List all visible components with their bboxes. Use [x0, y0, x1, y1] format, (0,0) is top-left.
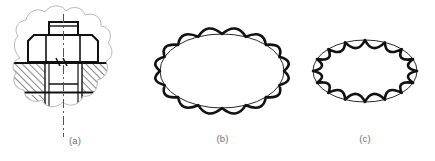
panel-b-caption: (b) [150, 133, 295, 145]
lower-plate-left-hatch [8, 95, 45, 123]
panel-b: (b) [150, 0, 295, 161]
panel-c-caption: (c) [295, 133, 435, 145]
lower-plate-right-hatch [82, 95, 120, 123]
upper-plate-right-hatch [82, 63, 120, 92]
panel-a: (a) [0, 0, 150, 161]
figure-root: (a) (b) (c) [0, 0, 435, 161]
panel-c: (c) [295, 0, 435, 161]
panel-a-caption: (a) [0, 135, 150, 147]
